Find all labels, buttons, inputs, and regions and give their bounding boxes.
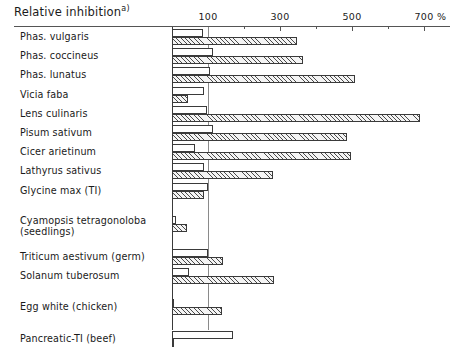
axis-title-footnote: a)	[121, 4, 129, 13]
bar-hatched	[172, 95, 188, 103]
axis-tick-label-700: 700	[414, 11, 433, 22]
percent-unit-label: %	[437, 11, 446, 22]
row-label: Solanum tuberosum	[20, 270, 119, 281]
bar-open	[172, 299, 174, 307]
row-label: Pancreatic-TI (beef)	[20, 333, 116, 344]
bar-hatched	[172, 114, 420, 122]
bar-hatched	[172, 276, 274, 284]
bar-row-group: Egg white (chicken)	[0, 299, 458, 315]
bar-hatched	[172, 37, 297, 45]
row-label-line1: Triticum aestivum (germ)	[20, 251, 145, 262]
row-label: Triticum aestivum (germ)	[20, 251, 145, 262]
bar-row-group: Cicer arietinum	[0, 144, 458, 160]
row-label: Lathyrus sativus	[20, 165, 101, 176]
bar-open	[172, 87, 204, 95]
bar-open	[172, 106, 207, 114]
row-label-line1: Phas. coccineus	[20, 50, 99, 61]
bar-open	[172, 331, 233, 339]
bar-hatched	[172, 133, 347, 141]
bar-row-group: Phas. coccineus	[0, 48, 458, 64]
row-label-line1: Egg white (chicken)	[20, 301, 117, 312]
bar-hatched	[172, 75, 355, 83]
row-label: Phas. vulgaris	[20, 31, 89, 42]
bar-row-group: Lens culinaris	[0, 106, 458, 122]
bar-hatched	[172, 152, 351, 160]
bar-open	[172, 249, 208, 257]
axis-tick-label-100: 100	[198, 11, 217, 22]
bar-open	[172, 125, 213, 133]
bar-row-group: Cyamopsis tetragonoloba(seedlings)	[0, 216, 458, 232]
row-label: Pisum sativum	[20, 127, 92, 138]
row-label: Cicer arietinum	[20, 146, 96, 157]
bar-row-group: Vicia faba	[0, 87, 458, 103]
bar-row-group: Phas. vulgaris	[0, 29, 458, 45]
row-label: Cyamopsis tetragonoloba(seedlings)	[20, 215, 146, 237]
row-label-line1: Pancreatic-TI (beef)	[20, 333, 116, 344]
top-axis-line	[14, 26, 450, 27]
chart-axis-title: Relative inhibitiona)	[14, 4, 130, 19]
bar-open	[172, 144, 195, 152]
row-label: Phas. lunatus	[20, 69, 86, 80]
bar-hatched	[172, 171, 273, 179]
axis-tick-label-300: 300	[270, 11, 289, 22]
bar-open	[172, 67, 210, 75]
bar-open	[172, 48, 213, 56]
row-label-line1: Cyamopsis tetragonoloba	[20, 215, 146, 226]
bar-hatched	[172, 56, 303, 64]
row-label-line1: Vicia faba	[20, 89, 69, 100]
row-label: Vicia faba	[20, 89, 69, 100]
row-label-line1: Lens culinaris	[20, 108, 88, 119]
row-label: Glycine max (TI)	[20, 185, 101, 196]
row-label-line2: (seedlings)	[20, 226, 146, 237]
bar-row-group: Pancreatic-TI (beef)	[0, 331, 458, 347]
bar-open	[172, 183, 208, 191]
row-label-line1: Lathyrus sativus	[20, 165, 101, 176]
row-label-line1: Glycine max (TI)	[20, 185, 101, 196]
axis-title-text: Relative inhibition	[14, 5, 121, 19]
row-label: Phas. coccineus	[20, 50, 99, 61]
bar-hatched	[172, 307, 222, 315]
bar-hatched	[172, 257, 223, 265]
bar-row-group: Glycine max (TI)	[0, 183, 458, 199]
row-label-line1: Cicer arietinum	[20, 146, 96, 157]
bar-hatched	[172, 339, 174, 347]
bar-open	[172, 268, 189, 276]
axis-tick-label-500: 500	[342, 11, 361, 22]
row-label-line1: Pisum sativum	[20, 127, 92, 138]
bar-open	[172, 163, 204, 171]
bar-row-group: Solanum tuberosum	[0, 268, 458, 284]
row-label: Egg white (chicken)	[20, 301, 117, 312]
bar-open	[172, 216, 176, 224]
row-label-line1: Solanum tuberosum	[20, 270, 119, 281]
bar-row-group: Lathyrus sativus	[0, 163, 458, 179]
bar-hatched	[172, 191, 204, 199]
bar-hatched	[172, 224, 187, 232]
bar-row-group: Pisum sativum	[0, 125, 458, 141]
bar-row-group: Phas. lunatus	[0, 67, 458, 83]
row-label-line1: Phas. lunatus	[20, 69, 86, 80]
bar-open	[172, 29, 203, 37]
row-label-line1: Phas. vulgaris	[20, 31, 89, 42]
row-label: Lens culinaris	[20, 108, 88, 119]
bar-row-group: Triticum aestivum (germ)	[0, 249, 458, 265]
